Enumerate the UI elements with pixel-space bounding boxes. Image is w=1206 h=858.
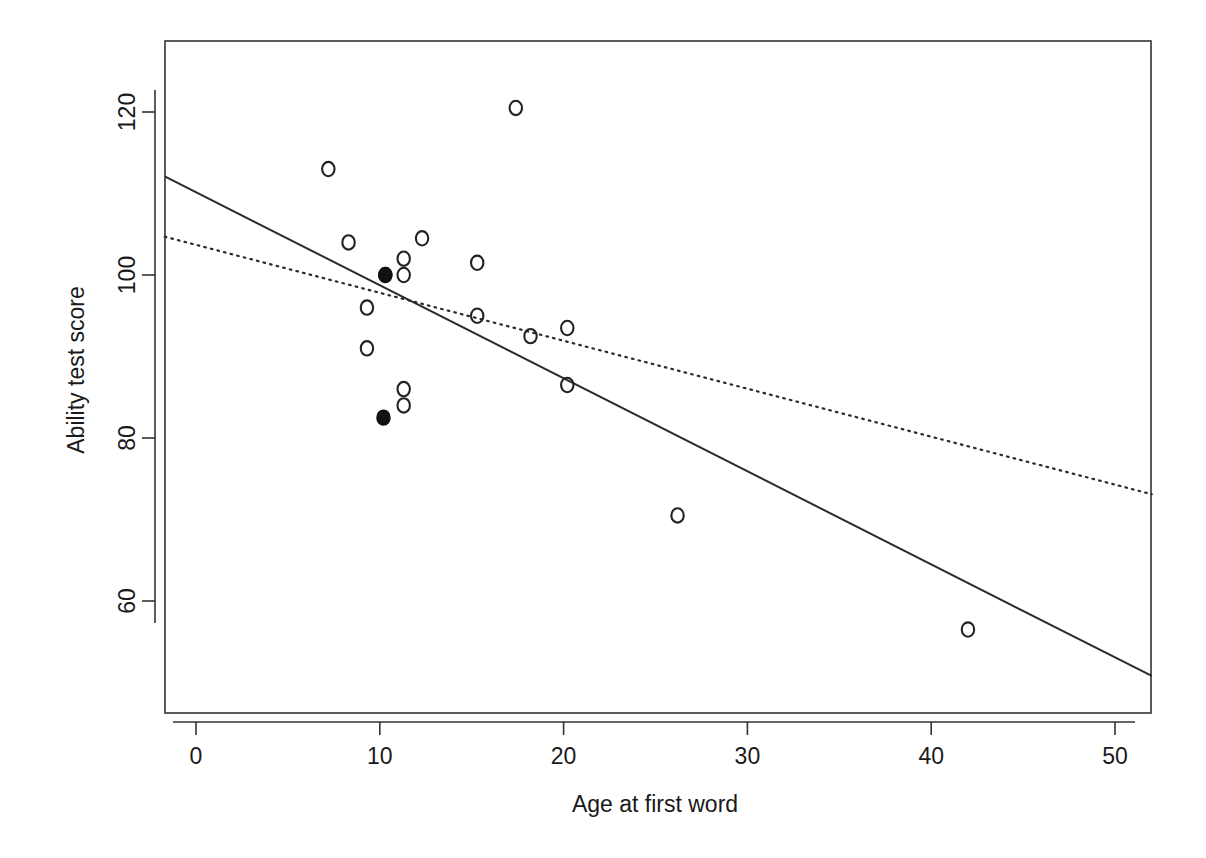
y-tick-label: 120 [114, 93, 140, 131]
scatter-plot-figure: 01020304050 6080100120 Age at first word… [0, 0, 1206, 858]
x-tick-label: 50 [1102, 743, 1128, 769]
y-axis-title: Ability test score [63, 286, 89, 453]
x-axis-title: Age at first word [572, 791, 738, 817]
data-point-filled [379, 268, 391, 282]
y-tick-label: 60 [114, 588, 140, 614]
y-tick-label: 100 [114, 256, 140, 294]
x-tick-label: 20 [551, 743, 577, 769]
x-tick-label: 10 [367, 743, 393, 769]
plot-canvas: 01020304050 6080100120 Age at first word… [0, 0, 1206, 858]
data-point-filled [377, 410, 389, 424]
x-tick-label: 0 [190, 743, 203, 769]
figure-background [0, 0, 1206, 858]
x-tick-label: 40 [918, 743, 944, 769]
x-tick-label: 30 [735, 743, 761, 769]
y-tick-label: 80 [114, 425, 140, 451]
